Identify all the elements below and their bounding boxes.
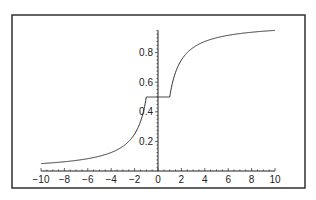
- x-tick-label: 0: [155, 174, 161, 185]
- chart: −10−8−6−4−20246810 0.20.40.60.8: [0, 0, 316, 200]
- x-tick-label: 4: [202, 174, 208, 185]
- x-tick-label: −4: [105, 174, 117, 185]
- y-tick-label: 0.6: [139, 77, 153, 88]
- x-tick-label: −6: [82, 174, 94, 185]
- x-tick-label: −8: [59, 174, 71, 185]
- x-tick-label: 8: [249, 174, 255, 185]
- x-tick-label: 10: [269, 174, 281, 185]
- y-tick-label: 0.2: [139, 136, 153, 147]
- x-tick-label: 2: [179, 174, 185, 185]
- y-tick-label: 0.8: [139, 47, 153, 58]
- x-tick-label: 6: [225, 174, 231, 185]
- x-tick-label: −2: [129, 174, 141, 185]
- y-tick-label: 0.4: [139, 106, 153, 117]
- x-tick-label: −10: [33, 174, 50, 185]
